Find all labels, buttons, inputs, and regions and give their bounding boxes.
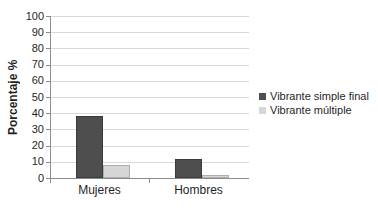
gridline bbox=[51, 113, 249, 114]
y-tick-mark bbox=[46, 113, 50, 114]
y-tick-mark bbox=[46, 16, 50, 17]
y-tick-label: 40 bbox=[16, 108, 44, 119]
legend-swatch-icon bbox=[259, 93, 266, 100]
y-tick-mark bbox=[46, 32, 50, 33]
legend-label: Vibrante múltiple bbox=[270, 104, 352, 116]
gridline bbox=[51, 65, 249, 66]
bar-chart: Porcentaje % Vibrante simple final Vibra… bbox=[0, 0, 378, 209]
y-tick-label: 70 bbox=[16, 59, 44, 70]
y-tick-label: 60 bbox=[16, 75, 44, 86]
y-tick-mark bbox=[46, 129, 50, 130]
y-tick-label: 50 bbox=[16, 92, 44, 103]
legend-item: Vibrante simple final bbox=[259, 89, 369, 103]
gridline bbox=[51, 81, 249, 82]
gridline bbox=[51, 16, 249, 17]
plot-area bbox=[50, 16, 249, 179]
y-tick-mark bbox=[46, 146, 50, 147]
y-tick-label: 100 bbox=[16, 11, 44, 22]
bar bbox=[76, 116, 103, 178]
gridline bbox=[51, 48, 249, 49]
legend-swatch-icon bbox=[259, 107, 266, 114]
y-tick-label: 20 bbox=[16, 140, 44, 151]
bar bbox=[175, 159, 202, 178]
gridline bbox=[51, 32, 249, 33]
y-tick-mark bbox=[46, 162, 50, 163]
y-tick-mark bbox=[46, 97, 50, 98]
y-tick-mark bbox=[46, 65, 50, 66]
y-tick-label: 10 bbox=[16, 156, 44, 167]
y-tick-mark bbox=[46, 48, 50, 49]
legend: Vibrante simple final Vibrante múltiple bbox=[259, 89, 369, 117]
y-tick-label: 30 bbox=[16, 124, 44, 135]
x-category-label: Mujeres bbox=[50, 183, 149, 197]
x-tick-mark bbox=[50, 179, 51, 183]
gridline bbox=[51, 97, 249, 98]
x-tick-mark bbox=[149, 179, 150, 183]
legend-label: Vibrante simple final bbox=[270, 90, 369, 102]
legend-item: Vibrante múltiple bbox=[259, 103, 369, 117]
y-tick-mark bbox=[46, 81, 50, 82]
bar bbox=[202, 175, 229, 178]
y-tick-label: 90 bbox=[16, 27, 44, 38]
y-tick-label: 80 bbox=[16, 43, 44, 54]
bar bbox=[103, 165, 130, 178]
x-category-label: Hombres bbox=[149, 183, 248, 197]
y-tick-label: 0 bbox=[16, 173, 44, 184]
